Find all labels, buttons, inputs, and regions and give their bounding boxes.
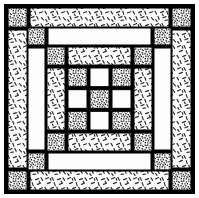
ring-inner-corner-bottom-right xyxy=(134,133,152,151)
ring-outer-band-bottom xyxy=(30,171,169,190)
ring-outer-band-top xyxy=(30,8,169,27)
quilt-canvas xyxy=(0,0,199,198)
patch-layer xyxy=(8,8,191,190)
ring-outer-band-left xyxy=(8,30,27,168)
nine-patch-cell-center xyxy=(90,90,109,109)
ring-inner-band-top xyxy=(68,47,131,65)
quilt-block-diagram xyxy=(0,0,199,198)
ring-outer-corner-top-right xyxy=(172,8,191,27)
ring-outer-corner-bottom-left xyxy=(8,171,27,190)
ring-outer-band-right xyxy=(172,30,191,168)
nine-patch-cell-bottom-center xyxy=(90,111,109,130)
nine-patch-cell-middle-left xyxy=(68,90,87,109)
ring-inner-corner-top-left xyxy=(47,47,65,65)
nine-patch-cell-top-left xyxy=(68,68,87,87)
ring-middle-band-right xyxy=(154,48,171,150)
ring-outer-corner-top-left xyxy=(8,8,27,27)
nine-patch-cell-bottom-left xyxy=(68,111,87,130)
nine-patch-cell-middle-right xyxy=(112,90,131,109)
nine-patch-cell-top-right xyxy=(112,68,131,87)
ring-inner-band-left xyxy=(47,68,65,130)
nine-patch-cell-bottom-right xyxy=(112,111,131,130)
ring-middle-corner-bottom-left xyxy=(28,153,45,170)
ring-middle-corner-bottom-right xyxy=(154,153,171,170)
nine-patch-cell-top-center xyxy=(90,68,109,87)
ring-middle-band-left xyxy=(28,48,45,150)
ring-middle-corner-top-right xyxy=(154,28,171,45)
ring-inner-band-right xyxy=(134,68,152,130)
ring-inner-corner-top-right xyxy=(134,47,152,65)
ring-middle-corner-top-left xyxy=(28,28,45,45)
ring-middle-band-bottom xyxy=(48,153,151,170)
ring-inner-corner-bottom-left xyxy=(47,133,65,151)
ring-outer-corner-bottom-right xyxy=(172,171,191,190)
ring-inner-band-bottom xyxy=(68,133,131,151)
ring-middle-band-top xyxy=(48,28,151,45)
